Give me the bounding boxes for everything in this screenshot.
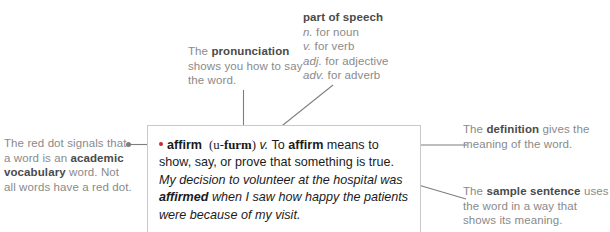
callout-definition: The definition gives the meaning of the … — [463, 122, 608, 151]
sample-bold-word: affirmed — [159, 190, 208, 204]
callout-pronunciation: The pronunciation shows you how to say t… — [188, 44, 306, 88]
pos-expansion-noun: for noun — [313, 26, 359, 38]
pos-abbr-noun: n. — [303, 26, 313, 38]
pos-expansion-adjective: for adjective — [322, 55, 389, 67]
pos-abbr-row-adjective: adj. for adjective — [303, 54, 453, 69]
definition-headword-repeat: affirm — [288, 138, 323, 152]
pronunciation-open: (u- — [209, 138, 224, 152]
entry-headword: affirm — [167, 138, 202, 152]
callout-sample-sentence-bold: sample sentence — [486, 185, 580, 197]
callout-pronunciation-lead: The — [188, 45, 211, 57]
callout-red-dot: The red dot signals that a word is an ac… — [4, 136, 134, 194]
dictionary-entry-diagram: affirm (u-furm) v. To affirm means to sh… — [0, 0, 610, 232]
pos-expansion-adverb: for adverb — [324, 69, 380, 81]
callout-definition-bold: definition — [486, 123, 539, 135]
callout-pronunciation-bold: pronunciation — [211, 45, 289, 57]
pos-abbr-row-adverb: adv. for adverb — [303, 68, 453, 83]
callout-sample-sentence-lead: The — [463, 185, 486, 197]
dictionary-entry-content: affirm (u-furm) v. To affirm means to sh… — [159, 137, 411, 224]
callout-pronunciation-rest: shows you how to say the word. — [188, 60, 303, 87]
sample-lead: My decision to volunteer at the hospital… — [159, 173, 403, 187]
pos-abbr-adverb: adv. — [303, 69, 324, 81]
pos-abbr-row-verb: v. for verb — [303, 39, 453, 54]
academic-vocabulary-red-dot-icon — [159, 142, 163, 146]
entry-pronunciation: (u-furm) — [209, 138, 256, 152]
pronunciation-stressed-syllable: furm — [224, 138, 252, 152]
definition-lead: To — [268, 138, 288, 152]
callout-definition-lead: The — [463, 123, 486, 135]
callout-part-of-speech-heading: part of speech — [303, 10, 453, 25]
callout-sample-sentence: The sample sentence uses the word in a w… — [463, 184, 610, 228]
callout-part-of-speech: part of speech n. for noun v. for verb a… — [303, 10, 453, 83]
pos-abbr-row-noun: n. for noun — [303, 25, 453, 40]
entry-part-of-speech: v. — [259, 138, 268, 152]
pos-abbr-adjective: adj. — [303, 55, 322, 67]
entry-sample-sentence: My decision to volunteer at the hospital… — [159, 173, 408, 222]
pos-expansion-verb: for verb — [311, 40, 354, 52]
